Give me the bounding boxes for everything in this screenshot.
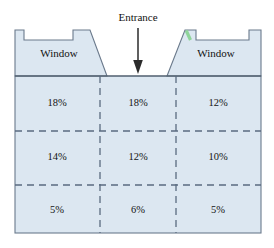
left-window-label: Window <box>40 47 77 59</box>
cell-value-r1c3: 12% <box>208 97 228 108</box>
cell-value-r3c2: 6% <box>131 204 145 215</box>
cell-value-r2c3: 10% <box>208 151 228 162</box>
down-arrow-icon <box>133 28 143 74</box>
entrance-label: Entrance <box>118 11 157 23</box>
cell-value-r3c1: 5% <box>50 204 64 215</box>
cell-value-r2c1: 14% <box>47 151 67 162</box>
cell-value-r2c2: 12% <box>128 151 148 162</box>
cell-value-r1c1: 18% <box>47 97 67 108</box>
cell-value-r3c3: 5% <box>211 204 225 215</box>
cell-value-r1c2: 18% <box>128 97 148 108</box>
store-layout-diagram: Window Window Entrance 18% 18% 12% 14% 1… <box>0 0 274 248</box>
right-window-label: Window <box>197 47 234 59</box>
